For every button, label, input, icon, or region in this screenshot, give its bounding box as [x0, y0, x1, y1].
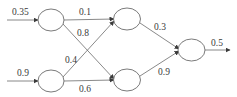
- weight-h1-o1: 0.3: [154, 22, 166, 32]
- edge-i1-h1: [64, 19, 114, 20]
- output-value: 0.5: [211, 38, 223, 48]
- neural-network-diagram: 0.35 0.9 0.5 0.1 0.8 0.4 0.6 0.3 0.9: [0, 0, 237, 97]
- weight-i1-h2: 0.8: [77, 28, 89, 38]
- input-node-2: [38, 70, 64, 92]
- weight-i1-h1: 0.1: [79, 7, 91, 17]
- weight-h2-o1: 0.9: [158, 67, 170, 77]
- input-node-1: [38, 9, 64, 31]
- weight-i2-h2: 0.6: [79, 84, 91, 94]
- output-node: [178, 39, 205, 61]
- edge-i2-h2: [64, 80, 114, 81]
- weight-i2-h1: 0.4: [65, 55, 77, 65]
- hidden-node-2: [114, 69, 141, 91]
- input-value-2: 0.9: [17, 68, 29, 78]
- hidden-node-1: [114, 8, 141, 30]
- input-value-1: 0.35: [12, 7, 29, 17]
